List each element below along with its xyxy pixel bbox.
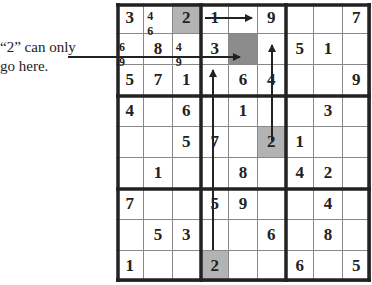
- cell-value: 1: [182, 70, 191, 90]
- cell-value: 8: [154, 39, 163, 59]
- sudoku-cell-r7c8: 4: [314, 189, 342, 220]
- sudoku-cell-r9c1: 1: [116, 251, 144, 282]
- sudoku-cell-r6c2: 1: [144, 158, 172, 189]
- sudoku-cell-r3c5: 6: [229, 65, 257, 96]
- sudoku-cell-r3c4: [201, 65, 229, 96]
- cell-value: 1: [295, 132, 304, 152]
- cell-value: 8: [239, 163, 248, 183]
- sudoku-cell-r4c7: [286, 96, 314, 127]
- sudoku-cell-r5c2: [144, 127, 172, 158]
- annotation-caption: “2” can only go here.: [0, 38, 76, 76]
- sudoku-cell-r4c2: [144, 96, 172, 127]
- sudoku-cell-r3c8: [314, 65, 342, 96]
- cell-value: 1: [154, 163, 163, 183]
- sudoku-cell-r9c9: 5: [343, 251, 371, 282]
- sudoku-cell-r1c5: [229, 3, 257, 34]
- sudoku-cell-r1c7: [286, 3, 314, 34]
- sudoku-cell-r2c6: [258, 34, 286, 65]
- sudoku-cell-r8c8: 8: [314, 220, 342, 251]
- sudoku-cell-r9c2: [144, 251, 172, 282]
- cell-value: 3: [324, 101, 333, 121]
- cell-value: 4: [324, 194, 333, 214]
- sudoku-cell-r7c2: [144, 189, 172, 220]
- sudoku-cell-r4c3: 6: [173, 96, 201, 127]
- sudoku-cell-r3c9: 9: [343, 65, 371, 96]
- sudoku-cell-r3c3: 1: [173, 65, 201, 96]
- sudoku-cell-r4c4: [201, 96, 229, 127]
- cell-value: 5: [182, 132, 191, 152]
- cell-value: 7: [154, 70, 163, 90]
- sudoku-cell-r1c1: 3: [116, 3, 144, 34]
- sudoku-cell-r2c9: [343, 34, 371, 65]
- cell-value: 2: [267, 132, 276, 152]
- sudoku-cell-r2c1: 6 9: [116, 34, 144, 65]
- sudoku-cell-r6c7: 4: [286, 158, 314, 189]
- cell-value: 2: [210, 256, 219, 276]
- sudoku-cell-r5c6: 2: [258, 127, 286, 158]
- cell-value: 6: [182, 101, 191, 121]
- cell-value: 3: [210, 39, 219, 59]
- sudoku-cell-r4c8: 3: [314, 96, 342, 127]
- cell-value: 6: [267, 225, 276, 245]
- sudoku-cell-r3c1: 5: [116, 65, 144, 96]
- sudoku-cell-r5c9: [343, 127, 371, 158]
- sudoku-cell-r8c4: [201, 220, 229, 251]
- sudoku-cell-r1c2: 4 6: [144, 3, 172, 34]
- cell-value: 4: [295, 163, 304, 183]
- sudoku-cell-r4c1: 4: [116, 96, 144, 127]
- sudoku-cell-r9c3: [173, 251, 201, 282]
- sudoku-cell-r5c7: 1: [286, 127, 314, 158]
- caption-line-1: “2” can only: [0, 39, 76, 55]
- sudoku-cell-r7c3: [173, 189, 201, 220]
- sudoku-cell-r7c7: [286, 189, 314, 220]
- sudoku-cell-r8c9: [343, 220, 371, 251]
- cell-value: 5: [154, 225, 163, 245]
- sudoku-cell-r7c6: [258, 189, 286, 220]
- cell-value: 4: [267, 70, 276, 90]
- sudoku-grid: 34 621976 984 93515716494613572118427594…: [116, 3, 371, 282]
- cell-value: 7: [210, 132, 219, 152]
- sudoku-cell-r1c3: 2: [173, 3, 201, 34]
- sudoku-cell-r3c2: 7: [144, 65, 172, 96]
- sudoku-cell-r1c4: 1: [201, 3, 229, 34]
- cell-value: 1: [239, 101, 248, 121]
- sudoku-cell-r8c6: 6: [258, 220, 286, 251]
- cell-value: 3: [125, 8, 134, 28]
- cell-value: 5: [125, 70, 134, 90]
- cell-value: 9: [352, 70, 361, 90]
- sudoku-cell-r6c3: [173, 158, 201, 189]
- cell-value: 2: [324, 163, 333, 183]
- sudoku-cell-r7c1: 7: [116, 189, 144, 220]
- cell-value: 8: [324, 225, 333, 245]
- caption-line-2: go here.: [0, 58, 48, 74]
- sudoku-cell-r4c6: [258, 96, 286, 127]
- sudoku-cell-r1c8: [314, 3, 342, 34]
- sudoku-cell-r6c6: [258, 158, 286, 189]
- cell-value: 5: [352, 256, 361, 276]
- sudoku-cell-r2c4: 3: [201, 34, 229, 65]
- sudoku-cell-r8c7: [286, 220, 314, 251]
- sudoku-cell-r2c3: 4 9: [173, 34, 201, 65]
- sudoku-cell-r9c6: [258, 251, 286, 282]
- cell-value: 1: [125, 256, 134, 276]
- sudoku-cell-r6c4: [201, 158, 229, 189]
- sudoku-cell-r8c2: 5: [144, 220, 172, 251]
- sudoku-cell-r9c8: [314, 251, 342, 282]
- cell-value: 7: [125, 194, 134, 214]
- cell-value: 5: [295, 39, 304, 59]
- sudoku-cell-r7c4: 5: [201, 189, 229, 220]
- sudoku-cell-r5c3: 5: [173, 127, 201, 158]
- sudoku-cell-r9c5: [229, 251, 257, 282]
- sudoku-cell-r8c1: [116, 220, 144, 251]
- sudoku-cell-r6c1: [116, 158, 144, 189]
- cell-value: 6: [239, 70, 248, 90]
- sudoku-cell-r5c4: 7: [201, 127, 229, 158]
- sudoku-cell-r9c7: 6: [286, 251, 314, 282]
- cell-value: 6: [295, 256, 304, 276]
- cell-value: 4: [125, 101, 134, 121]
- cell-value: 2: [182, 8, 191, 28]
- sudoku-cell-r1c9: 7: [343, 3, 371, 34]
- sudoku-cell-r2c5: [229, 34, 257, 65]
- sudoku-cell-r3c7: [286, 65, 314, 96]
- sudoku-cell-r2c8: 1: [314, 34, 342, 65]
